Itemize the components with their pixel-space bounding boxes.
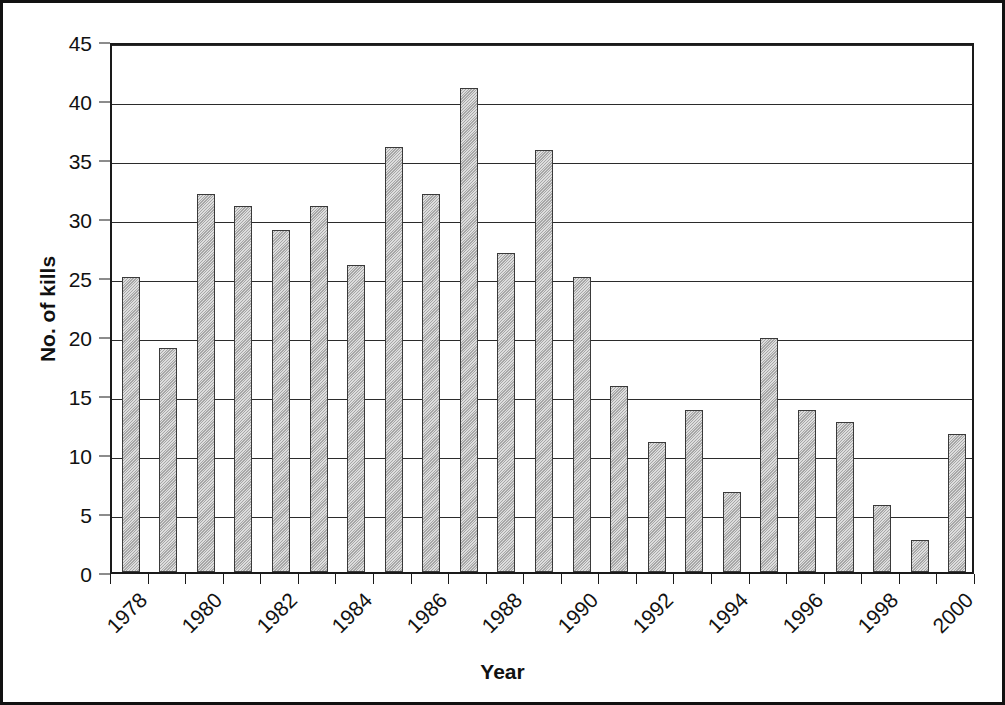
bar[interactable] — [685, 410, 703, 572]
x-tick-mark — [974, 574, 975, 584]
x-tick-label: 1980 — [177, 588, 227, 638]
bar[interactable] — [234, 206, 252, 572]
bar-slot — [563, 45, 601, 572]
x-tick-mark — [411, 574, 412, 584]
x-axis: 1978198019821984198619881990199219941996… — [110, 574, 974, 674]
x-tick-label: 1990 — [553, 588, 603, 638]
y-tick-mark — [99, 456, 110, 457]
x-tick-mark — [110, 574, 111, 584]
bar-slot — [638, 45, 676, 572]
x-tick-label: 1984 — [327, 588, 377, 638]
bar[interactable] — [159, 348, 177, 572]
y-tick-mark — [99, 161, 110, 162]
bar-slot — [826, 45, 864, 572]
bar[interactable] — [497, 253, 515, 572]
bar[interactable] — [422, 194, 440, 572]
y-tick-label: 0 — [46, 564, 92, 585]
y-tick-mark — [99, 102, 110, 103]
bar-slot — [150, 45, 188, 572]
x-tick-label: 1988 — [477, 588, 527, 638]
bar[interactable] — [310, 206, 328, 572]
bar[interactable] — [798, 410, 816, 572]
bar-slot — [112, 45, 150, 572]
x-tick-mark — [486, 574, 487, 584]
x-tick-mark — [711, 574, 712, 584]
bar-slot — [901, 45, 939, 572]
x-tick-mark — [335, 574, 336, 584]
y-tick-mark — [99, 43, 110, 44]
y-tick-label: 20 — [46, 328, 92, 349]
bar-slot — [375, 45, 413, 572]
y-tick-mark — [99, 515, 110, 516]
x-tick-mark — [185, 574, 186, 584]
bar-slot — [300, 45, 338, 572]
x-tick-label: 1978 — [102, 588, 152, 638]
y-tick-mark — [99, 220, 110, 221]
x-tick-label: 1996 — [778, 588, 828, 638]
bar[interactable] — [385, 147, 403, 572]
x-tick-mark — [749, 574, 750, 584]
x-tick-mark — [673, 574, 674, 584]
bar[interactable] — [836, 422, 854, 572]
x-tick-mark — [148, 574, 149, 584]
plot-area — [110, 43, 974, 574]
y-axis: No. of kills 051015202530354045 — [3, 43, 110, 574]
bar-slot — [413, 45, 451, 572]
bar-slot — [675, 45, 713, 572]
bar[interactable] — [648, 442, 666, 572]
x-tick-mark — [448, 574, 449, 584]
y-tick-label: 25 — [46, 269, 92, 290]
bar[interactable] — [272, 230, 290, 572]
bar-slot — [337, 45, 375, 572]
bar-slot — [713, 45, 751, 572]
y-tick-mark — [99, 397, 110, 398]
bar-slot — [488, 45, 526, 572]
bar-slot — [938, 45, 976, 572]
bar-slot — [225, 45, 263, 572]
bar[interactable] — [911, 540, 929, 572]
x-tick-mark — [523, 574, 524, 584]
bar[interactable] — [610, 386, 628, 572]
y-tick-label: 5 — [46, 505, 92, 526]
bar-slot — [751, 45, 789, 572]
x-tick-label: 2000 — [928, 588, 978, 638]
bar-slot — [187, 45, 225, 572]
x-tick-mark — [260, 574, 261, 584]
x-tick-label: 1994 — [703, 588, 753, 638]
bar[interactable] — [122, 277, 140, 572]
x-tick-mark — [636, 574, 637, 584]
bar[interactable] — [197, 194, 215, 572]
bar[interactable] — [347, 265, 365, 572]
bar-series — [112, 45, 972, 572]
x-tick-label: 1998 — [853, 588, 903, 638]
x-tick-mark — [298, 574, 299, 584]
chart-figure: No. of kills 051015202530354045 19781980… — [0, 0, 1005, 705]
bar-slot — [525, 45, 563, 572]
x-tick-mark — [824, 574, 825, 584]
x-tick-label: 1982 — [252, 588, 302, 638]
bar[interactable] — [873, 505, 891, 572]
bar[interactable] — [760, 338, 778, 572]
bar-slot — [600, 45, 638, 572]
x-tick-mark — [373, 574, 374, 584]
x-tick-mark — [861, 574, 862, 584]
bar[interactable] — [723, 492, 741, 572]
x-tick-mark — [899, 574, 900, 584]
y-tick-mark — [99, 279, 110, 280]
bar[interactable] — [948, 434, 966, 572]
x-axis-title: Year — [3, 660, 1002, 684]
bar[interactable] — [460, 88, 478, 572]
x-tick-mark — [561, 574, 562, 584]
x-tick-mark — [786, 574, 787, 584]
x-tick-mark — [936, 574, 937, 584]
y-tick-label: 10 — [46, 446, 92, 467]
y-tick-label: 35 — [46, 151, 92, 172]
bar[interactable] — [535, 150, 553, 572]
y-tick-label: 40 — [46, 92, 92, 113]
bar-slot — [450, 45, 488, 572]
y-tick-label: 45 — [46, 33, 92, 54]
x-tick-label: 1986 — [402, 588, 452, 638]
bar[interactable] — [573, 277, 591, 572]
x-tick-mark — [223, 574, 224, 584]
bar-slot — [262, 45, 300, 572]
